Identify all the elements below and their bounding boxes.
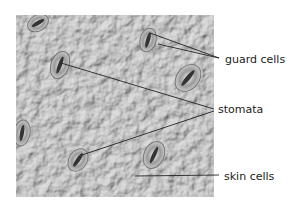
label-guard-cells: guard cells <box>225 54 285 65</box>
label-stomata: stomata <box>218 104 263 115</box>
guard-cells-leader-2 <box>158 44 219 58</box>
stomata-leader-1 <box>61 63 214 109</box>
skin-cells-leader <box>135 175 219 176</box>
stomata-leader-2 <box>82 111 214 155</box>
guard-cells-leader-1 <box>150 33 219 58</box>
label-skin-cells: skin cells <box>224 171 274 182</box>
